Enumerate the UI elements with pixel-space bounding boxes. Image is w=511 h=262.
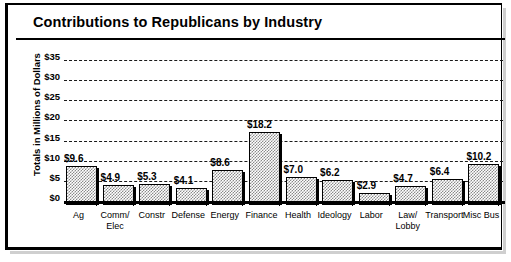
x-axis-category-label: Constr xyxy=(132,210,171,221)
x-axis-category-label: Transport xyxy=(425,210,464,221)
bar-value-label: $4.7 xyxy=(393,173,412,184)
gridline xyxy=(64,120,503,121)
x-axis-tick xyxy=(498,201,499,206)
x-axis-tick xyxy=(169,201,170,206)
figure-drop-shadow-right xyxy=(503,8,506,254)
gridline xyxy=(64,141,503,142)
x-axis-tick xyxy=(462,201,463,206)
x-axis-category-label: Comm/ Elec xyxy=(96,210,135,231)
bar-value-label: $10.2 xyxy=(466,151,491,162)
bar-value-label: $8.6 xyxy=(210,157,229,168)
bar-value-label: $4.9 xyxy=(101,172,120,183)
x-axis-tick xyxy=(242,201,243,206)
x-axis-category-label: Finance xyxy=(242,210,281,221)
gridline xyxy=(64,100,503,101)
x-axis-category-label: Ag xyxy=(59,210,98,221)
bar-value-label: $9.6 xyxy=(64,153,83,164)
figure-drop-shadow-bottom xyxy=(10,251,505,254)
bar xyxy=(468,164,499,205)
y-axis-title: Totals in Millions of Dollars xyxy=(31,40,42,190)
bar xyxy=(66,166,97,205)
x-axis-tick xyxy=(133,201,134,206)
chart-frame: Contributions to Republicans by Industry… xyxy=(5,3,502,250)
bar-edge-shadow xyxy=(499,166,501,205)
bar-value-label: $6.2 xyxy=(320,167,339,178)
x-axis-category-label: Energy xyxy=(205,210,244,221)
gridline xyxy=(64,60,503,61)
bar-value-label: $18.2 xyxy=(247,119,272,130)
x-axis-tick xyxy=(206,201,207,206)
x-axis-category-label: Health xyxy=(279,210,318,221)
gridline xyxy=(64,80,503,81)
bar xyxy=(249,132,280,205)
title-divider xyxy=(16,38,505,40)
x-axis-tick xyxy=(425,201,426,206)
x-axis-category-label: Labor xyxy=(352,210,391,221)
x-axis-tick xyxy=(316,201,317,206)
gridline xyxy=(64,161,503,162)
plot-area: $9.6$4.9$5.3$4.1$8.6$18.2$7.0$6.2$2.9$4.… xyxy=(64,57,503,205)
x-axis-baseline xyxy=(64,201,505,204)
x-axis-tick xyxy=(352,201,353,206)
bar-value-label: $4.1 xyxy=(174,175,193,186)
x-axis-category-label: Ideology xyxy=(315,210,354,221)
y-axis-tick-label: $0 xyxy=(26,193,60,203)
x-axis-tick xyxy=(389,201,390,206)
bar xyxy=(212,170,243,205)
x-axis-category-label: Law/ Lobby xyxy=(388,210,427,231)
bar-value-label: $5.3 xyxy=(137,171,156,182)
y-axis-tick-labels: $35$30$25$20$15$10$5$0 xyxy=(24,5,60,262)
chart-title: Contributions to Republicans by Industry xyxy=(33,14,322,30)
bar-edge-shadow xyxy=(280,134,282,205)
bar-edge-shadow xyxy=(97,168,99,205)
bar-value-label: $7.0 xyxy=(284,164,303,175)
bar-value-label: $2.9 xyxy=(357,180,376,191)
bar-value-label: $6.4 xyxy=(430,166,449,177)
x-axis-category-label: Misc Bus xyxy=(461,210,500,221)
x-axis-tick xyxy=(96,201,97,206)
x-axis-category-label: Defense xyxy=(169,210,208,221)
x-axis-tick xyxy=(279,201,280,206)
